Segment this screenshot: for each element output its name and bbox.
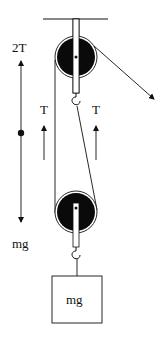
top-pulley bbox=[55, 19, 97, 93]
tension-label-right: T bbox=[92, 103, 100, 116]
fbd-point-mass bbox=[18, 130, 24, 136]
bottom-pulley bbox=[55, 191, 97, 247]
fbd-label-mg: mg bbox=[12, 237, 29, 250]
rope-pull-strand bbox=[94, 46, 154, 99]
top-hook-icon bbox=[72, 93, 80, 105]
tension-label-left: T bbox=[40, 103, 48, 116]
fbd-label-2t: 2T bbox=[12, 41, 26, 54]
bottom-hook-icon bbox=[72, 247, 80, 259]
mass-block-label: mg bbox=[66, 293, 83, 306]
